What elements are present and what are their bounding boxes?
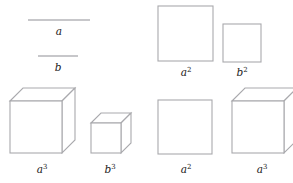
square-a2-compare-shape — [158, 100, 212, 154]
line-segments-panel: a b — [28, 20, 90, 73]
square-vs-cube-panel: a2 a3 — [158, 88, 293, 175]
square-b2-group: b2 — [223, 24, 261, 78]
cube-a3-compare-top-face — [232, 88, 293, 101]
cube-a3-group: a3 — [10, 88, 75, 175]
cubes-panel: a3 b3 — [10, 88, 131, 175]
square-b2-shape — [223, 24, 261, 62]
segment-a-group: a — [28, 20, 90, 37]
cube-b3-label: b3 — [104, 163, 115, 175]
squares-panel: a2 b2 — [158, 6, 261, 78]
cube-b3-front-face — [91, 123, 121, 153]
square-b2-label: b2 — [236, 66, 247, 78]
square-a2-group: a2 — [158, 6, 213, 78]
segment-b-group: b — [38, 56, 78, 73]
cube-a3-front-face — [10, 101, 62, 153]
powers-figure: a b a2 b2 a3 — [0, 0, 293, 183]
cube-a3-compare-front-face — [232, 101, 284, 153]
cube-a3-label: a3 — [37, 163, 48, 175]
square-a2-compare-label: a2 — [181, 163, 192, 175]
cube-a3-compare-group: a3 — [232, 88, 293, 175]
segment-b-label: b — [55, 61, 62, 73]
square-a2-shape — [158, 6, 213, 61]
cube-b3-group: b3 — [91, 113, 131, 175]
segment-a-label: a — [56, 25, 62, 37]
square-a2-label: a2 — [181, 66, 192, 78]
cube-a3-compare-label: a3 — [257, 163, 268, 175]
figure-canvas: a b a2 b2 a3 — [0, 0, 293, 183]
square-a2-compare-group: a2 — [158, 100, 212, 175]
